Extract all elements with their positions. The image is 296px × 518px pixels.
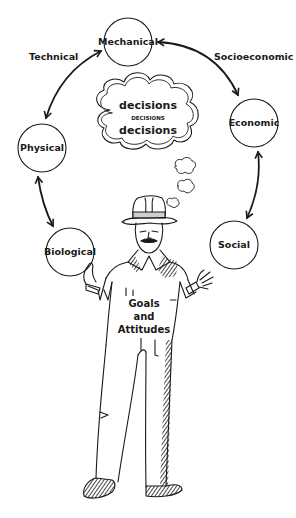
hat-band xyxy=(133,212,165,218)
left-shoe xyxy=(84,478,115,498)
node-social: Social xyxy=(210,221,258,269)
zipper xyxy=(141,337,158,356)
thought-puffs xyxy=(167,157,196,207)
right-hand xyxy=(197,270,213,289)
nose xyxy=(148,232,151,238)
left-leg xyxy=(96,345,138,482)
node-label-economic: Economic xyxy=(229,117,280,128)
node-mechanical: Mechanical xyxy=(98,18,158,66)
goals-and-attitudes: Goals and Attitudes xyxy=(118,296,171,338)
man-figure xyxy=(84,196,213,498)
shirt-shade-left xyxy=(128,256,142,272)
torso-left-edge xyxy=(106,282,112,345)
right-shoe xyxy=(146,485,182,497)
edge-label-technical: Technical xyxy=(29,51,78,62)
arrow-physical-biological xyxy=(38,177,53,226)
node-economic: Economic xyxy=(229,99,280,147)
knee-patch xyxy=(100,412,108,418)
node-label-physical: Physical xyxy=(20,142,64,153)
arrow-economic-social xyxy=(247,152,259,218)
edge-label-socioeconomic: Socioeconomic xyxy=(214,51,293,62)
crotch xyxy=(138,350,146,355)
arrow-mechanical-economic xyxy=(158,42,238,95)
thought-cloud: decisions DECISIONS decisions xyxy=(97,73,199,208)
hat-crease xyxy=(145,198,153,212)
goals-text-2: and xyxy=(133,311,154,322)
node-physical: Physical xyxy=(18,124,66,172)
cloud-text-3: decisions xyxy=(119,124,177,137)
right-leg-shade xyxy=(160,340,172,486)
goals-text-3: Attitudes xyxy=(118,324,171,335)
hat-brim xyxy=(122,218,177,225)
mustache xyxy=(141,239,157,243)
node-biological: Biological xyxy=(44,228,96,276)
torso-right-edge xyxy=(172,282,180,340)
node-label-mechanical: Mechanical xyxy=(98,36,158,47)
shirt-shade-right xyxy=(158,256,178,278)
right-arm xyxy=(180,280,196,298)
decision-diagram: Technical Socioeconomic Mechanical Econo… xyxy=(0,0,296,518)
node-label-social: Social xyxy=(218,239,250,250)
right-cuff xyxy=(186,282,199,294)
cloud-text-1: decisions xyxy=(119,99,177,112)
goals-text-1: Goals xyxy=(128,298,159,309)
node-label-biological: Biological xyxy=(44,246,96,257)
cloud-text-2: DECISIONS xyxy=(131,115,165,121)
